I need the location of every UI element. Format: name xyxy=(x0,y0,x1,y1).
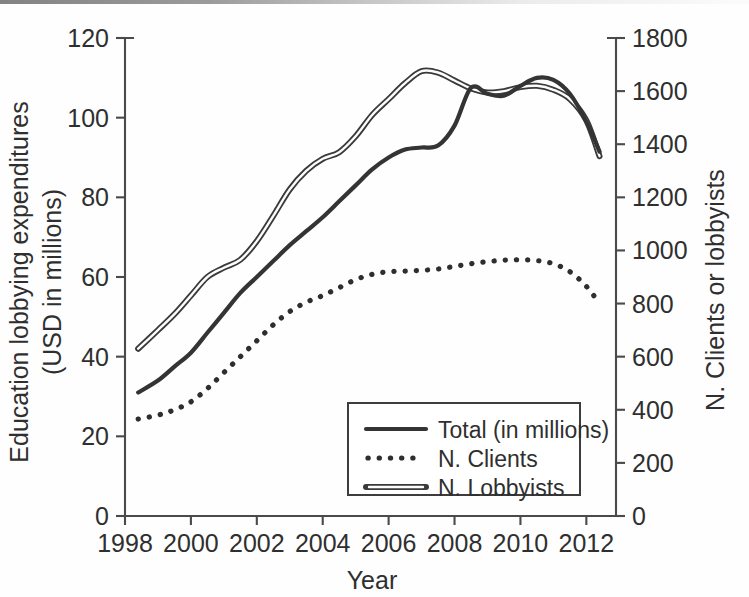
right-axis-ticks xyxy=(616,38,625,516)
right-axis-line xyxy=(608,38,616,516)
y-axis-title-line2: (USD in millions) xyxy=(38,189,66,375)
x-axis-ticks xyxy=(125,516,586,525)
legend-item-label: N. Clients xyxy=(438,446,538,472)
x-axis-tick-labels: 19982000200220042006200820102012 xyxy=(97,529,614,557)
right-tick-label: 400 xyxy=(632,396,674,424)
x-tick-label: 2004 xyxy=(295,529,351,557)
right-tick-label: 1600 xyxy=(632,77,688,105)
right-tick-label: 1400 xyxy=(632,130,688,158)
right-tick-label: 0 xyxy=(632,502,646,530)
series-line-total xyxy=(138,77,599,392)
series-line-clients xyxy=(138,260,599,419)
right-tick-label: 1800 xyxy=(632,24,688,52)
chart-figure: 020406080100120 020040060080010001200140… xyxy=(0,0,749,597)
series-line-lobbyists xyxy=(138,70,599,348)
right-tick-label: 600 xyxy=(632,343,674,371)
left-tick-label: 60 xyxy=(81,263,109,291)
x-tick-label: 1998 xyxy=(97,529,153,557)
legend-item-label: Total (in millions) xyxy=(438,417,609,443)
y-axis-title-line1: Education lobbying expenditures xyxy=(5,101,33,462)
right-tick-label: 1000 xyxy=(632,236,688,264)
series-line-lobbyists-core xyxy=(138,70,599,348)
scan-edge-artifact xyxy=(0,0,749,4)
left-tick-label: 40 xyxy=(81,343,109,371)
x-tick-label: 2010 xyxy=(493,529,549,557)
left-tick-label: 100 xyxy=(67,104,109,132)
x-axis-title: Year xyxy=(347,566,398,594)
left-tick-label: 120 xyxy=(67,24,109,52)
left-axis-line xyxy=(125,38,133,516)
right-tick-label: 1200 xyxy=(632,183,688,211)
x-tick-label: 2006 xyxy=(361,529,417,557)
line-chart: 020406080100120 020040060080010001200140… xyxy=(0,0,749,597)
x-tick-label: 2002 xyxy=(229,529,285,557)
right-tick-label: 200 xyxy=(632,449,674,477)
right-axis-tick-labels: 020040060080010001200140016001800 xyxy=(632,24,688,530)
left-axis-ticks xyxy=(116,38,125,516)
y2-axis-title: N. Clients or lobbyists xyxy=(701,169,729,411)
left-tick-label: 0 xyxy=(95,502,109,530)
chart-legend: Total (in millions)N. ClientsN. Lobbyist… xyxy=(348,403,609,501)
left-tick-label: 80 xyxy=(81,183,109,211)
legend-item-label: N. Lobbyists xyxy=(438,475,565,501)
x-tick-label: 2000 xyxy=(163,529,219,557)
x-tick-label: 2012 xyxy=(559,529,615,557)
left-tick-label: 20 xyxy=(81,422,109,450)
left-axis-tick-labels: 020406080100120 xyxy=(67,24,109,530)
x-tick-label: 2008 xyxy=(427,529,483,557)
right-tick-label: 800 xyxy=(632,290,674,318)
